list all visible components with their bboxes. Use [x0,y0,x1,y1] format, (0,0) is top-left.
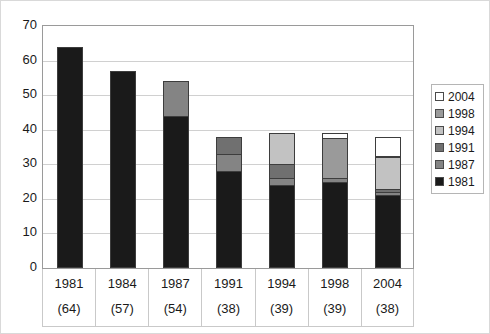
bar-group [43,26,96,268]
legend-label: 1994 [448,125,475,137]
category-cell: 1991(38) [201,269,254,327]
legend-swatch-icon [435,126,444,135]
legend-label: 2004 [448,91,475,103]
chart-legend: 200419981994199119871981 [431,84,484,194]
category-cell: 1987(54) [148,269,201,327]
legend-item-1998[interactable]: 1998 [435,105,481,122]
category-cell: 1998(39) [308,269,361,327]
legend-item-1991[interactable]: 1991 [435,139,481,156]
legend-label: 1987 [448,159,475,171]
category-count-label: (38) [362,302,413,316]
bar-segment-1994[interactable] [269,133,295,164]
bar-segment-1981[interactable] [57,47,83,268]
y-axis-tick-label: 0 [5,260,37,273]
stacked-bar[interactable] [269,133,295,268]
y-axis-tick-label: 60 [5,53,37,66]
stacked-bar[interactable] [57,47,83,268]
category-year-label: 1991 [202,277,254,291]
bar-group [202,26,255,268]
legend-item-1987[interactable]: 1987 [435,156,481,173]
legend-swatch-icon [435,177,444,186]
stacked-bar[interactable] [216,137,242,268]
y-axis-tick-label: 20 [5,191,37,204]
category-count-label: (39) [309,302,361,316]
legend-swatch-icon [435,160,444,169]
legend-label: 1991 [448,142,475,154]
bar-segment-1981[interactable] [163,116,189,268]
legend-item-1981[interactable]: 1981 [435,173,481,190]
bar-group [362,26,415,268]
bar-segment-1981[interactable] [216,171,242,268]
category-year-label: 1987 [149,277,201,291]
category-cell: 1984(57) [95,269,148,327]
category-year-label: 1981 [43,277,95,291]
bar-segment-1981[interactable] [322,182,348,268]
y-axis-tick-label: 30 [5,156,37,169]
bar-segment-1987[interactable] [216,154,242,171]
bar-group [149,26,202,268]
category-cell: 1994(39) [255,269,308,327]
bar-segment-1987[interactable] [269,178,295,185]
category-cell: 1981(64) [42,269,95,327]
legend-label: 1998 [448,108,475,120]
stacked-bar[interactable] [322,133,348,268]
category-count-label: (38) [202,302,254,316]
category-year-label: 1998 [309,277,361,291]
legend-item-1994[interactable]: 1994 [435,122,481,139]
bar-segment-1987[interactable] [163,81,189,116]
legend-label: 1981 [448,176,475,188]
y-axis-tick-label: 70 [5,18,37,31]
stacked-bar[interactable] [375,137,401,268]
bar-segment-1991[interactable] [269,164,295,178]
legend-swatch-icon [435,109,444,118]
stacked-bar[interactable] [163,81,189,268]
bar-group [96,26,149,268]
category-count-label: (39) [256,302,308,316]
bar-segment-1991[interactable] [216,137,242,154]
bar-group [256,26,309,268]
y-axis-tick-label: 40 [5,122,37,135]
category-count-label: (54) [149,302,201,316]
bar-segment-1981[interactable] [375,195,401,268]
y-axis-tick-label: 50 [5,87,37,100]
category-year-label: 2004 [362,277,413,291]
category-cell: 2004(38) [361,269,414,327]
bar-segment-2004[interactable] [375,137,401,156]
category-count-label: (57) [96,302,148,316]
category-year-label: 1984 [96,277,148,291]
category-count-label: (64) [43,302,95,316]
bar-segment-1981[interactable] [110,71,136,268]
legend-swatch-icon [435,92,444,101]
legend-item-2004[interactable]: 2004 [435,88,481,105]
legend-swatch-icon [435,143,444,152]
bar-segment-1994[interactable] [375,157,401,188]
y-axis-tick-label: 10 [5,225,37,238]
category-axis: 1981(64)1984(57)1987(54)1991(38)1994(39)… [42,269,414,327]
category-year-label: 1994 [256,277,308,291]
plot-area [42,25,414,269]
stacked-bar[interactable] [110,71,136,268]
bar-segment-1998[interactable] [322,138,348,178]
bar-segment-1981[interactable] [269,185,295,268]
bar-group [309,26,362,268]
chart-figure: 1981(64)1984(57)1987(54)1991(38)1994(39)… [0,0,490,334]
